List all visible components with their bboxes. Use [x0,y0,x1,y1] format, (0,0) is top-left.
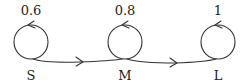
state-s-probability: 0.6 [21,4,42,17]
state-m-loop [108,25,142,59]
transition-s-to-m [33,59,122,62]
state-s-label: S [27,69,36,82]
state-l-probability: 1 [214,4,222,17]
state-m-probability: 0.8 [115,4,136,17]
state-s-loop [14,25,48,59]
state-l-loop [201,25,235,59]
state-l-label: L [214,69,223,82]
state-m-label: M [118,69,131,82]
